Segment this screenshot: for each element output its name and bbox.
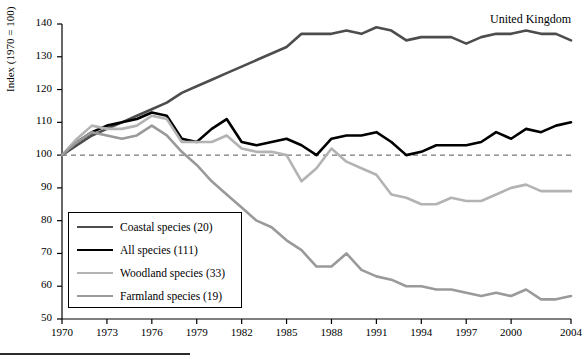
legend-swatch-woodland: [77, 272, 113, 274]
x-tick-label: 1973: [87, 326, 127, 338]
y-tick-label: 120: [26, 82, 52, 94]
x-tick-label: 2004: [551, 326, 583, 338]
legend-swatch-all: [77, 249, 113, 251]
x-tick-label: 1979: [177, 326, 217, 338]
x-tick-label: 1976: [132, 326, 172, 338]
legend-swatch-farmland: [77, 295, 113, 297]
legend-item-farmland: Farmland species (19): [77, 285, 222, 307]
y-tick-label: 80: [26, 213, 52, 225]
legend-label-farmland: Farmland species (19): [120, 290, 222, 302]
chart-container: United Kingdom Index (1970 = 100) Coasta…: [0, 0, 583, 359]
legend-item-woodland: Woodland species (33): [77, 262, 225, 284]
footer-rule: [0, 353, 190, 355]
x-tick-label: 1988: [311, 326, 351, 338]
y-tick-label: 130: [26, 49, 52, 61]
legend: Coastal species (20) All species (111) W…: [68, 212, 242, 308]
y-tick-label: 110: [26, 114, 52, 126]
legend-label-all: All species (111): [120, 244, 198, 256]
x-tick-label: 1985: [267, 326, 307, 338]
y-tick-label: 70: [26, 245, 52, 257]
legend-swatch-coastal: [77, 226, 113, 228]
x-tick-label: 1994: [401, 326, 441, 338]
y-tick-label: 60: [26, 278, 52, 290]
x-tick-label: 2000: [491, 326, 531, 338]
legend-item-coastal: Coastal species (20): [77, 216, 213, 238]
legend-label-coastal: Coastal species (20): [120, 221, 213, 233]
y-tick-label: 50: [26, 311, 52, 323]
x-tick-label: 1982: [222, 326, 262, 338]
y-tick-label: 140: [26, 16, 52, 28]
y-tick-label: 100: [26, 147, 52, 159]
legend-label-woodland: Woodland species (33): [120, 267, 225, 279]
x-tick-label: 1970: [42, 326, 82, 338]
legend-item-all: All species (111): [77, 239, 198, 261]
y-tick-label: 90: [26, 180, 52, 192]
x-tick-label: 1997: [446, 326, 486, 338]
x-tick-label: 1991: [356, 326, 396, 338]
